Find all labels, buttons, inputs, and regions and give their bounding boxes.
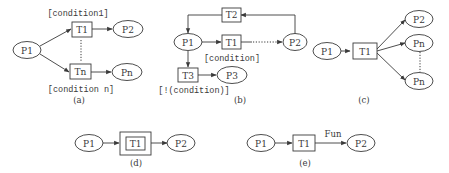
transition-t1: T1 xyxy=(293,135,315,151)
panel-d: P1 P2 T1 (d) xyxy=(75,132,195,168)
place-p3: P3 xyxy=(217,67,247,84)
caption-b: (b) xyxy=(234,95,246,105)
place-label: P2 xyxy=(122,25,134,35)
place-label: Pn xyxy=(413,39,425,49)
place-label: P2 xyxy=(289,38,301,48)
edge-p1-t1 xyxy=(40,29,71,46)
panel-e: Fun P1 P2 T1 (e) xyxy=(247,129,375,168)
condition-label-top: [condition1] xyxy=(47,9,108,19)
place-label: P2 xyxy=(355,139,367,149)
place-p1: P1 xyxy=(75,135,103,152)
transition-label: T1 xyxy=(298,139,310,149)
transition-label: T1 xyxy=(359,47,371,57)
place-label: Pn xyxy=(413,77,425,87)
condition-label-t1: [condition] xyxy=(204,54,260,64)
transition-label: T1 xyxy=(226,38,238,48)
condition-label-t3: [!(condition)] xyxy=(158,86,229,96)
panel-a: P1 P2 Pn T1 Tn [condition1] [condition n… xyxy=(13,9,143,105)
place-label: P1 xyxy=(83,139,95,149)
place-p2: P2 xyxy=(347,135,375,152)
transition-t1: T1 xyxy=(222,35,241,49)
place-label: Pn xyxy=(121,68,133,78)
petri-net-diagram: P1 P2 Pn T1 Tn [condition1] [condition n… xyxy=(0,0,449,173)
transition-t3: T3 xyxy=(178,68,198,82)
place-label: P2 xyxy=(413,15,425,25)
place-p2: P2 xyxy=(167,135,195,152)
place-p1: P1 xyxy=(13,42,41,59)
panel-b: P1 P2 P3 T2 T1 T3 [condition] [!(conditi… xyxy=(158,8,307,105)
place-p2: P2 xyxy=(113,21,143,38)
caption-a: (a) xyxy=(73,95,85,105)
transition-label: T1 xyxy=(130,139,142,149)
transition-t1: T1 xyxy=(72,22,92,37)
caption-d: (d) xyxy=(130,158,142,168)
place-p1: P1 xyxy=(313,43,341,60)
edge-t1-pn2 xyxy=(377,53,405,80)
transition-t2: T2 xyxy=(222,8,241,22)
place-label: P1 xyxy=(321,47,333,57)
panel-c: P1 P2 Pn Pn T1 (c) xyxy=(313,11,433,106)
edge-t2-p1 xyxy=(188,15,222,33)
transition-label: T2 xyxy=(226,10,238,20)
place-label: P3 xyxy=(226,71,238,81)
place-p2: P2 xyxy=(405,11,433,28)
place-pn-2: Pn xyxy=(405,73,433,90)
place-label: P2 xyxy=(175,139,187,149)
edge-p1-tn xyxy=(40,54,69,72)
edge-p2-t2 xyxy=(241,15,295,34)
place-p1: P1 xyxy=(247,135,275,152)
transition-label: Tn xyxy=(75,67,87,77)
caption-e: (e) xyxy=(299,158,311,168)
place-pn-1: Pn xyxy=(405,35,433,52)
transition-t1: T1 xyxy=(353,43,377,59)
place-label: P1 xyxy=(182,38,194,48)
place-label: P1 xyxy=(255,139,267,149)
place-p1: P1 xyxy=(174,34,202,51)
place-label: P1 xyxy=(21,46,33,56)
transition-t1-subnet: T1 xyxy=(120,132,151,155)
transition-label: T3 xyxy=(182,71,194,81)
caption-c: (c) xyxy=(358,95,369,105)
edge-label-fun: Fun xyxy=(325,129,342,139)
transition-tn: Tn xyxy=(70,64,91,79)
place-p2: P2 xyxy=(283,34,307,51)
transition-label: T1 xyxy=(76,25,88,35)
condition-label-bottom: [condition n] xyxy=(48,85,114,95)
place-pn: Pn xyxy=(112,64,142,81)
